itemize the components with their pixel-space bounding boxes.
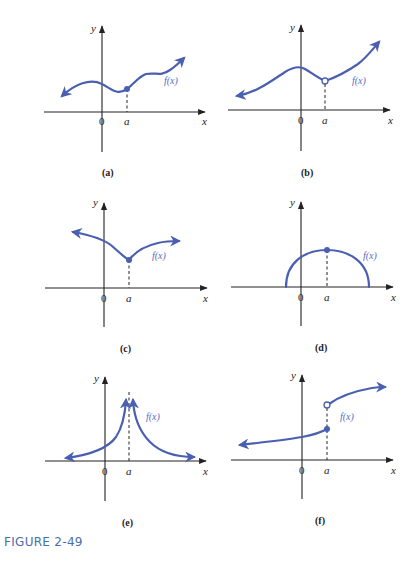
function-label: f(x) bbox=[363, 250, 378, 262]
a-label: a bbox=[324, 291, 330, 303]
panel-caption: (f) bbox=[315, 515, 325, 527]
y-label: y bbox=[289, 21, 295, 33]
origin-label: 0 bbox=[102, 465, 108, 477]
y-label: y bbox=[290, 369, 296, 381]
function-label: f(x) bbox=[152, 250, 167, 262]
panel-caption: (e) bbox=[122, 517, 133, 529]
panel-caption: (a) bbox=[102, 167, 114, 179]
y-label: y bbox=[90, 22, 96, 34]
function-label: f(x) bbox=[340, 411, 355, 423]
y-label: y bbox=[92, 196, 98, 208]
panel-f: y x 0 a f(x) (f) bbox=[231, 369, 396, 527]
origin-label: 0 bbox=[99, 115, 105, 127]
open-point bbox=[324, 402, 330, 408]
a-label: a bbox=[126, 465, 132, 477]
a-label: a bbox=[324, 464, 330, 476]
function-curve-lower bbox=[240, 429, 327, 445]
origin-label: 0 bbox=[298, 291, 304, 303]
panel-d: y x 0 a f(x) (d) bbox=[231, 196, 396, 354]
x-label: x bbox=[202, 292, 208, 304]
x-label: x bbox=[202, 465, 208, 477]
function-label: f(x) bbox=[352, 75, 367, 87]
origin-label: 0 bbox=[101, 292, 107, 304]
function-curve-upper bbox=[329, 387, 385, 404]
panel-caption: (d) bbox=[315, 342, 327, 354]
a-label: a bbox=[322, 114, 328, 126]
panel-c: y x 0 a f(x) (c) bbox=[45, 196, 208, 355]
origin-label: 0 bbox=[299, 464, 305, 476]
figure-canvas: y x 0 a f(x) (a) y x 0 a f(x) (b) y x 0 … bbox=[0, 0, 412, 562]
a-label: a bbox=[126, 292, 132, 304]
panel-a: y x 0 a f(x) (a) bbox=[44, 22, 207, 179]
y-label: y bbox=[93, 372, 99, 384]
x-label: x bbox=[201, 115, 207, 127]
x-label: x bbox=[390, 464, 396, 476]
function-label: f(x) bbox=[164, 75, 179, 87]
function-curve-right bbox=[133, 400, 194, 457]
x-label: x bbox=[390, 291, 396, 303]
filled-point bbox=[324, 426, 330, 432]
panel-b: y x 0 a f(x) (b) bbox=[228, 21, 393, 179]
filled-point bbox=[126, 257, 132, 263]
x-label: x bbox=[387, 114, 393, 126]
function-curve bbox=[237, 42, 379, 96]
function-curve-left bbox=[66, 400, 126, 458]
filled-point bbox=[324, 247, 330, 253]
panel-caption: (c) bbox=[120, 343, 131, 355]
y-label: y bbox=[289, 196, 295, 208]
panel-caption: (b) bbox=[301, 167, 313, 179]
open-point bbox=[322, 78, 328, 84]
function-label: f(x) bbox=[146, 411, 161, 423]
origin-label: 0 bbox=[298, 114, 304, 126]
filled-point bbox=[124, 86, 130, 92]
figure-title: FIGURE 2-49 bbox=[4, 535, 83, 549]
panel-e: y x 0 a f(x) (e) bbox=[45, 372, 208, 529]
a-label: a bbox=[124, 115, 130, 127]
function-curve-left bbox=[73, 232, 129, 260]
